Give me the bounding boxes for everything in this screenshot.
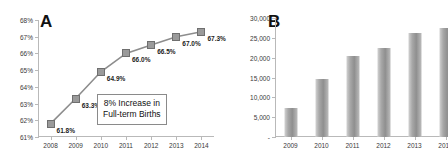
x-tick-label: 2013 [407,142,421,149]
panel-b: B -5,00010,00015,00020,00025,00030,00020… [224,0,448,158]
panel-a: A 61%62%63%64%65%66%67%68%20082009201020… [0,0,224,158]
x-tick [126,136,127,140]
y-tick-label: - [268,134,270,141]
x-tick [101,136,102,140]
x-tick [201,136,202,140]
y-tick [35,53,39,54]
y-tick-label: 65% [20,67,33,74]
y-tick [35,37,39,38]
y-tick [272,58,276,59]
y-tick [272,18,276,19]
y-tick-label: 25,000 [250,34,270,41]
y-tick-label: 63% [20,100,33,107]
data-point-label: 64.9% [107,74,125,81]
data-point-label: 66.5% [157,48,175,55]
x-tick-label: 2010 [94,142,108,149]
bar [284,108,297,137]
bar [346,56,359,137]
y-tick-label: 67% [20,33,33,40]
y-tick-label: 30,000 [250,15,270,22]
y-tick-label: 15,000 [250,74,270,81]
y-tick [272,117,276,118]
y-tick-label: 20,000 [250,54,270,61]
callout-full-term-births: 8% Increase in Full-term Births [97,94,167,125]
y-tick-label: 5,000 [254,114,270,121]
figure-container: A 61%62%63%64%65%66%67%68%20082009201020… [0,0,448,158]
data-point-label: 61.8% [57,126,75,133]
y-tick [272,97,276,98]
y-tick-label: 66% [20,50,33,57]
x-tick-label: 2011 [119,142,133,149]
y-tick [35,20,39,21]
x-tick-label: 2011 [346,142,360,149]
data-point-label: 66.0% [132,56,150,63]
y-tick-label: 10,000 [250,94,270,101]
data-point-marker [47,120,55,128]
x-tick-label: 2012 [144,142,158,149]
x-axis-line [275,136,448,137]
data-point-label: 67.0% [182,39,200,46]
x-tick-label: 2014 [438,142,448,149]
y-tick-label: 62% [20,117,33,124]
data-point-marker [122,49,130,57]
bar [408,33,421,137]
x-tick-label: 2012 [376,142,390,149]
y-tick [35,70,39,71]
bar [315,79,328,137]
y-tick-label: 64% [20,83,33,90]
y-tick [35,87,39,88]
y-tick [272,38,276,39]
y-tick [35,137,39,138]
callout-a-line2: Full-term Births [103,109,161,120]
y-tick [35,120,39,121]
data-point-marker [197,28,205,36]
data-point-marker [97,68,105,76]
x-tick-label: 2008 [43,142,57,149]
bar [377,48,390,137]
x-tick-label: 2013 [169,142,183,149]
y-tick [272,137,276,138]
data-point-marker [147,41,155,49]
bar-chart-plot-area: -5,00010,00015,00020,00025,00030,0002009… [275,18,448,137]
y-tick-label: 68% [20,17,33,24]
x-tick-label: 2010 [314,142,328,149]
callout-a-line1: 8% Increase in [104,98,160,108]
x-tick [151,136,152,140]
x-tick-label: 2009 [283,142,297,149]
y-tick [35,104,39,105]
data-point-marker [172,33,180,41]
data-point-marker [72,95,80,103]
x-tick-label: 2009 [68,142,82,149]
x-tick-label: 2014 [194,142,208,149]
x-tick [76,136,77,140]
x-tick [51,136,52,140]
y-tick [272,78,276,79]
y-tick-label: 61% [20,134,33,141]
bar [439,28,448,137]
x-tick [176,136,177,140]
